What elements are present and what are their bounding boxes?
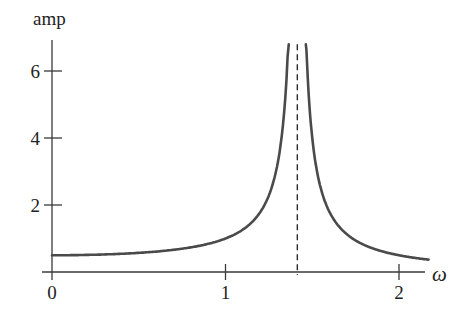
ticks	[44, 71, 399, 280]
tick-labels: 012246	[31, 61, 404, 303]
amplitude-curve	[52, 44, 429, 259]
y-tick-label: 4	[31, 128, 41, 149]
x-tick-label: 0	[47, 282, 57, 303]
y-tick-label: 2	[31, 195, 41, 216]
x-tick-label: 2	[394, 282, 404, 303]
curve-branch	[306, 44, 429, 259]
y-axis-label: amp	[33, 9, 66, 28]
resonance-chart: 012246	[0, 0, 469, 321]
x-tick-label: 1	[221, 282, 231, 303]
curve-branch	[52, 44, 289, 255]
axes	[42, 40, 425, 280]
x-axis-label: ω	[432, 264, 447, 285]
y-tick-label: 6	[31, 61, 41, 82]
